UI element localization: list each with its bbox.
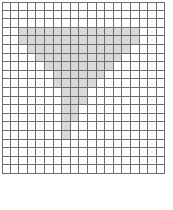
grid-cell-empty	[122, 105, 131, 114]
grid-cell-empty	[148, 11, 157, 20]
grid-cell-filled	[62, 28, 71, 37]
grid-cell-empty	[131, 79, 140, 88]
grid-cell-empty	[71, 2, 80, 11]
grid-cell-empty	[131, 131, 140, 140]
grid-cell-empty	[2, 28, 11, 37]
grid-cell-empty	[97, 114, 106, 123]
grid-cell-empty	[11, 36, 20, 45]
grid-cell-empty	[62, 2, 71, 11]
grid-cell-empty	[28, 88, 37, 97]
grid-cell-filled	[54, 62, 63, 71]
grid-cell-empty	[54, 105, 63, 114]
grid-cell-empty	[97, 97, 106, 106]
grid-cell-empty	[28, 71, 37, 80]
grid-cell-empty	[114, 140, 123, 149]
grid-cell-filled	[79, 45, 88, 54]
grid-cell-empty	[131, 11, 140, 20]
grid-cell-empty	[11, 62, 20, 71]
grid-cell-empty	[114, 131, 123, 140]
grid-cell-empty	[131, 54, 140, 63]
grid-cell-empty	[131, 157, 140, 166]
grid-cell-empty	[19, 71, 28, 80]
grid-cell-empty	[105, 122, 114, 131]
grid-cell-filled	[62, 114, 71, 123]
grid-cell-empty	[54, 19, 63, 28]
grid-cell-empty	[140, 165, 149, 174]
grid-cell-empty	[45, 2, 54, 11]
grid-cell-empty	[157, 36, 166, 45]
grid-cell-filled	[79, 54, 88, 63]
grid-cell-filled	[97, 54, 106, 63]
grid-cell-empty	[45, 140, 54, 149]
grid-cell-empty	[88, 148, 97, 157]
grid-cell-empty	[157, 165, 166, 174]
grid-cell-empty	[114, 114, 123, 123]
grid-cell-filled	[88, 45, 97, 54]
grid-cell-empty	[11, 79, 20, 88]
grid-cell-empty	[122, 11, 131, 20]
grid-cell-filled	[97, 36, 106, 45]
grid-cell-empty	[28, 97, 37, 106]
grid-cell-empty	[122, 131, 131, 140]
grid-cell-empty	[28, 19, 37, 28]
grid-cell-filled	[62, 88, 71, 97]
grid-cell-filled	[71, 88, 80, 97]
grid-cell-filled	[62, 54, 71, 63]
grid-cell-empty	[2, 2, 11, 11]
grid-cell-filled	[79, 62, 88, 71]
grid-cell-empty	[140, 2, 149, 11]
grid-cell-empty	[36, 19, 45, 28]
grid-cell-empty	[79, 157, 88, 166]
grid-cell-empty	[36, 165, 45, 174]
grid-cell-empty	[36, 114, 45, 123]
grid-cell-filled	[114, 36, 123, 45]
grid-cell-empty	[157, 2, 166, 11]
grid-cell-empty	[54, 2, 63, 11]
grid-cell-empty	[148, 131, 157, 140]
grid-cell-empty	[2, 148, 11, 157]
grid-cell-empty	[114, 88, 123, 97]
grid-cell-empty	[148, 79, 157, 88]
grid-cell-filled	[88, 54, 97, 63]
grid-cell-empty	[88, 2, 97, 11]
grid-cell-filled	[71, 28, 80, 37]
grid-cell-empty	[79, 114, 88, 123]
grid-cell-empty	[2, 62, 11, 71]
grid-cell-filled	[62, 131, 71, 140]
grid-cell-empty	[114, 148, 123, 157]
grid-cell-filled	[28, 45, 37, 54]
grid-cell-empty	[88, 131, 97, 140]
grid-cell-filled	[62, 105, 71, 114]
grid-cell-empty	[88, 97, 97, 106]
grid-cell-empty	[148, 105, 157, 114]
grid-cell-empty	[157, 79, 166, 88]
grid-cell-empty	[114, 97, 123, 106]
grid-cell-empty	[131, 62, 140, 71]
grid-cell-filled	[45, 62, 54, 71]
grid-cell-empty	[88, 122, 97, 131]
grid-cell-empty	[2, 79, 11, 88]
grid-cell-empty	[122, 157, 131, 166]
grid-cell-empty	[157, 140, 166, 149]
grid-cell-filled	[105, 54, 114, 63]
grid-cell-empty	[62, 11, 71, 20]
grid-cell-filled	[88, 71, 97, 80]
grid-cell-filled	[45, 28, 54, 37]
grid-cell-filled	[88, 36, 97, 45]
grid-cell-empty	[148, 97, 157, 106]
grid-cell-empty	[79, 122, 88, 131]
grid-cell-filled	[62, 62, 71, 71]
grid-cell-empty	[2, 157, 11, 166]
grid-cell-filled	[114, 45, 123, 54]
grid-cell-filled	[131, 28, 140, 37]
grid-cell-empty	[62, 157, 71, 166]
grid-cell-empty	[140, 62, 149, 71]
grid-cell-filled	[19, 36, 28, 45]
grid-cell-empty	[97, 157, 106, 166]
grid-cell-empty	[19, 131, 28, 140]
grid-cell-empty	[131, 122, 140, 131]
grid-cell-empty	[140, 114, 149, 123]
grid-cell-empty	[122, 54, 131, 63]
grid-cell-empty	[28, 140, 37, 149]
grid-cell-filled	[36, 45, 45, 54]
